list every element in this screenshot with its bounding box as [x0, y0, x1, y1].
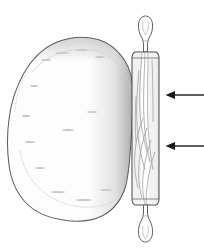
illustration-canvas: Rolling pin flattening a ball of dough [0, 0, 204, 249]
rolling-pin-body-shade [130, 50, 162, 208]
rolling-pin-dough-illustration: Rolling pin flattening a ball of dough [0, 0, 204, 249]
rolling-pin-grain [130, 50, 162, 208]
